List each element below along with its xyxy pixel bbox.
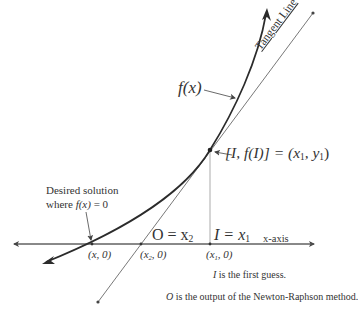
function-curve	[46, 14, 266, 262]
curve-label: f(x)	[178, 78, 202, 98]
tangent-point-marker	[208, 148, 213, 153]
output-label-text: O = x	[152, 226, 189, 243]
root-point-marker	[91, 243, 94, 246]
initial-guess-label-sub: 1	[245, 233, 250, 244]
x1-coordinate-label: (x1, 0)	[206, 248, 233, 261]
first-guess-note: I is the first guess.	[213, 269, 286, 280]
desired-line-2: where f(x) = 0	[46, 197, 118, 211]
x-axis-label: x-axis	[263, 233, 289, 244]
fx-pointer-arrow	[204, 90, 235, 98]
desired-line-2-fx: f(x)	[76, 198, 91, 210]
x1-point-marker	[209, 243, 212, 246]
x1-coord-suffix: , 0)	[218, 248, 233, 260]
output-label-sub: 2	[189, 233, 194, 244]
desired-line-2-prefix: where	[46, 198, 76, 210]
output-label: O = x2	[152, 226, 193, 244]
root-pointer-arrow	[86, 212, 91, 240]
output-note-text: is the output of the Newton-Raphson meth…	[173, 291, 358, 302]
initial-guess-label-text: I = x	[214, 226, 245, 243]
x2-coordinate-label: (x2, 0)	[140, 248, 167, 261]
output-note: O is the output of the Newton-Raphson me…	[166, 291, 358, 302]
root-coordinate-label: (x, 0)	[88, 248, 111, 260]
point-label-suffix: )	[324, 144, 329, 161]
initial-guess-label: I = x1	[214, 226, 250, 244]
point-label-prefix: [I, f(I)] = (x	[225, 144, 300, 161]
desired-line-2-suffix: = 0	[91, 198, 108, 210]
x1-coord-prefix: (x	[206, 248, 215, 260]
desired-line-1: Desired solution	[46, 183, 118, 197]
curve-arrow-top-icon	[262, 8, 271, 21]
x2-coord-prefix: (x	[140, 248, 149, 260]
point-label-mid: , y	[305, 144, 320, 161]
desired-solution-label: Desired solution where f(x) = 0	[46, 183, 118, 211]
x2-point-marker	[140, 243, 143, 246]
first-guess-note-text: is the first guess.	[216, 269, 286, 280]
tangent-point-label: [I, f(I)] = (x1, y1)	[225, 144, 329, 162]
x2-coord-suffix: , 0)	[152, 248, 167, 260]
